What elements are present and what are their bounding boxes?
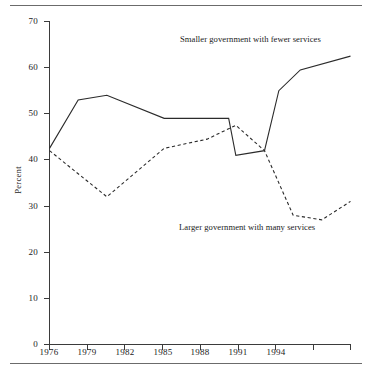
chart-figure: 70 60 50 40 30 20 10 0 1976 1979 1982 19… [0,0,371,375]
series-line-smaller-government [50,56,351,155]
x-tick-label-1985: 1985 [143,347,183,357]
y-tick-label: 50 [12,109,38,118]
y-axis-title: Percent [13,150,23,210]
annotation-smaller-government: Smaller government with fewer services [180,34,321,44]
y-tick-label: 20 [12,248,38,257]
x-tick-label-1982: 1982 [105,347,145,357]
y-tick-label: 10 [12,294,38,303]
annotation-larger-government: Larger government with many services [179,222,315,232]
y-tick-label: 60 [12,63,38,72]
x-tick-label-1988: 1988 [180,347,220,357]
y-tick-label: 70 [12,17,38,26]
x-tick-label-1991: 1991 [218,347,258,357]
x-tick-label-1979: 1979 [67,347,107,357]
x-tick-label-1994: 1994 [256,347,296,357]
series-line-larger-government [50,125,351,220]
y-axis-ticks [44,22,50,345]
x-tick-label-1976: 1976 [29,347,69,357]
plot-area [0,0,371,375]
